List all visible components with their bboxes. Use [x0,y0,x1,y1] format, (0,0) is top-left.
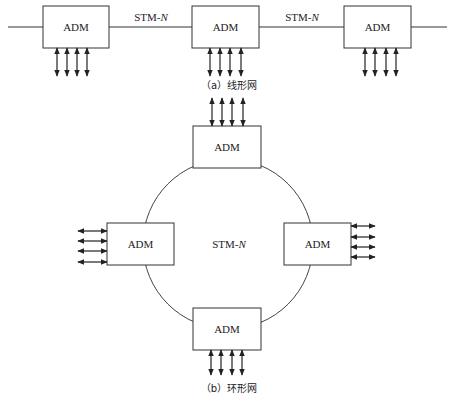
adm-label: ADM [214,141,240,153]
adm-label: ADM [128,238,154,250]
linear-caption: （a）线形网 [201,79,257,91]
linear-adm-node-2: ADM [192,6,259,76]
ring-adm-node-top: ADM [193,98,261,168]
sdh-network-diagram: STM-N STM-N ADMADMADM （a）线形网 ADMADMADMAD… [0,0,452,403]
linear-adm-node-1: ADM [43,6,109,76]
linear-network: STM-N STM-N ADMADMADM （a）线形网 [8,6,447,91]
ring-adm-node-bottom: ADM [193,308,261,375]
adm-label: ADM [305,238,331,250]
adm-label: ADM [63,21,89,33]
ring-network: ADMADMADMADM STM-N （b）环形网 [78,98,375,394]
adm-label: ADM [365,21,391,33]
ring-adm-node-right: ADM [284,223,375,265]
ring-adm-node-left: ADM [78,223,174,265]
adm-label: ADM [214,323,240,335]
ring-caption: （b）环形网 [201,383,257,394]
linear-link-label-2: STM-N [285,11,319,23]
linear-adm-node-3: ADM [344,6,411,76]
diagram-svg: STM-N STM-N ADMADMADM （a）线形网 ADMADMADMAD… [0,0,452,403]
adm-label: ADM [213,21,239,33]
ring-center-label: STM-N [212,238,246,250]
linear-link-label-1: STM-N [134,11,168,23]
